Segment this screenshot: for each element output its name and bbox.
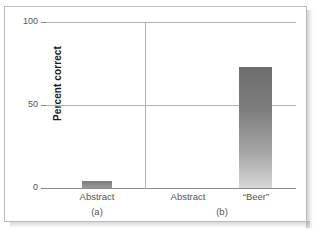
y-tick-label-50: 50 <box>28 100 38 109</box>
bar-panel-a-abstract <box>82 181 112 188</box>
x-axis-line <box>46 188 296 189</box>
plot-area <box>46 22 296 188</box>
x-label-panel-b-beer: “Beer” <box>226 191 286 202</box>
figure-container: 100 50 0 Percent correct Abstract (a) Ab… <box>0 0 320 230</box>
x-label-panel-a-abstract: Abstract <box>67 191 127 202</box>
y-tick-label-100: 100 <box>23 17 38 26</box>
bar-panel-b-beer <box>239 67 272 188</box>
y-axis-labels: 100 50 0 <box>0 0 38 230</box>
x-label-panel-b-abstract: Abstract <box>158 191 218 202</box>
gridline-100 <box>46 22 296 23</box>
panel-label-b: (b) <box>192 206 252 217</box>
figure-shadow-right <box>306 10 313 228</box>
x-axis-labels: Abstract (a) Abstract “Beer” (b) <box>46 191 296 227</box>
y-tick-label-0: 0 <box>33 183 38 192</box>
panel-divider <box>145 22 146 189</box>
panel-label-a: (a) <box>67 206 127 217</box>
